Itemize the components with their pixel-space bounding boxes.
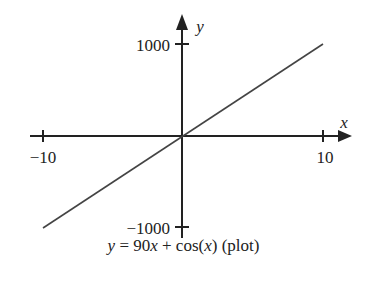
caption-x1: x <box>150 236 158 255</box>
chart-caption: y = 90x + cos(x) (plot) <box>0 236 367 256</box>
x-tick-neg-label: −10 <box>30 148 57 167</box>
caption-tail: ) (plot) <box>212 236 260 255</box>
caption-x2: x <box>204 236 212 255</box>
caption-plus: + cos( <box>158 236 204 255</box>
caption-y: y <box>108 236 116 255</box>
x-axis-label: x <box>339 113 348 132</box>
y-tick-pos-label: 1000 <box>136 36 170 55</box>
y-axis-label: y <box>194 17 204 36</box>
y-axis-arrow-icon <box>176 14 188 30</box>
caption-eq: = 90 <box>115 236 150 255</box>
x-tick-pos-label: 10 <box>317 148 334 167</box>
